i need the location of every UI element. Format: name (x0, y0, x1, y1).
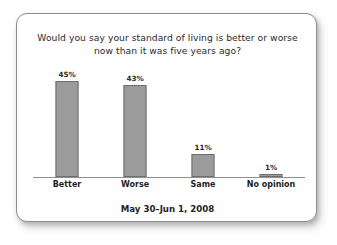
bar-value-worse: 43% (126, 74, 143, 83)
x-axis-category-labels: Better Worse Same No opinion (33, 180, 305, 194)
bar-same (192, 154, 215, 177)
bar-better (56, 81, 79, 177)
x-axis-line (33, 177, 305, 178)
chart-title-line-1: Would you say your standard of living is… (31, 31, 304, 44)
survey-date-range: May 30–Jun 1, 2008 (17, 204, 318, 214)
bar-worse (124, 85, 147, 177)
x-label-better: Better (33, 180, 101, 189)
chart-title-line-2: now than it was five years ago? (31, 44, 304, 57)
bar-value-no-opinion: 1% (265, 163, 277, 172)
chart-screenshot: Would you say your standard of living is… (0, 0, 337, 245)
bar-no-opinion (260, 174, 283, 177)
bar-chart-plot-area: 45% 43% 11% 1% (33, 66, 305, 178)
x-label-no-opinion: No opinion (237, 180, 305, 189)
chart-title: Would you say your standard of living is… (31, 31, 304, 57)
bar-group-worse: 43% (101, 66, 169, 177)
bar-value-same: 11% (194, 143, 211, 152)
chart-card: Would you say your standard of living is… (16, 13, 317, 222)
bar-group-no-opinion: 1% (237, 66, 305, 177)
bar-value-better: 45% (58, 70, 75, 79)
bar-group-better: 45% (33, 66, 101, 177)
x-label-same: Same (169, 180, 237, 189)
bar-group-same: 11% (169, 66, 237, 177)
x-label-worse: Worse (101, 180, 169, 189)
